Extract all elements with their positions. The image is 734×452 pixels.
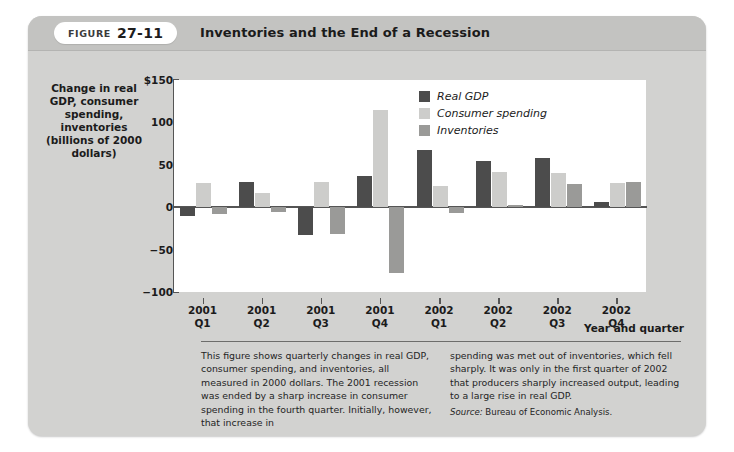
legend-label: Inventories: [437, 124, 499, 137]
figure-number: 27-11: [117, 25, 163, 41]
x-axis-label: 2001Q4: [350, 304, 410, 329]
y-axis-ticks: $150100500−50−100: [143, 80, 173, 292]
figure-panel: FIGURE 27-11 Inventories and the End of …: [28, 16, 706, 436]
x-label-year: 2002: [409, 304, 469, 317]
x-axis-labels: 2001Q12001Q22001Q32001Q42002Q12002Q22002…: [173, 298, 646, 328]
bar-consumer-spending: [196, 183, 211, 207]
x-label-quarter: Q3: [527, 317, 587, 330]
y-tick-label: −50: [150, 244, 173, 256]
caption-text-left: This figure shows quarterly changes in r…: [201, 349, 432, 429]
x-axis-label: 2002Q1: [409, 304, 469, 329]
bar-consumer-spending: [610, 183, 625, 207]
figure-title: Inventories and the End of a Recession: [200, 25, 490, 40]
bar-group: [351, 80, 410, 292]
y-tick-label: 50: [158, 159, 173, 171]
bar-group: [588, 80, 647, 292]
bar-inventories: [626, 182, 641, 207]
legend-label: Consumer spending: [437, 107, 547, 120]
legend-swatch-icon: [419, 91, 430, 102]
x-axis-label: 2002Q3: [527, 304, 587, 329]
legend-swatch-icon: [419, 125, 430, 136]
bar-consumer-spending: [433, 186, 448, 207]
y-tick-label: 0: [166, 201, 173, 213]
legend-item: Inventories: [419, 122, 589, 139]
chart-container: Change in real GDP, consumer spending, i…: [28, 50, 706, 338]
bar-consumer-spending: [314, 182, 329, 207]
x-label-year: 2001: [173, 304, 233, 317]
bar-group: [292, 80, 351, 292]
y-tick-label: $150: [144, 74, 173, 86]
legend-label: Real GDP: [437, 90, 488, 103]
bar-real-gdp: [594, 202, 609, 207]
bar-inventories: [508, 205, 523, 208]
x-axis-title: Year and quarter: [584, 322, 684, 334]
figure-caption: This figure shows quarterly changes in r…: [201, 341, 681, 429]
x-label-quarter: Q1: [409, 317, 469, 330]
bar-real-gdp: [357, 176, 372, 207]
bar-inventories: [212, 207, 227, 214]
x-label-year: 2001: [232, 304, 292, 317]
x-label-quarter: Q2: [468, 317, 528, 330]
legend-item: Real GDP: [419, 88, 589, 105]
figure-number-badge: FIGURE 27-11: [54, 22, 177, 44]
bar-inventories: [330, 207, 345, 234]
figure-header: FIGURE 27-11 Inventories and the End of …: [28, 16, 706, 51]
bar-real-gdp: [298, 207, 313, 235]
bar-group: [174, 80, 233, 292]
bar-inventories: [567, 184, 582, 207]
source-text: Bureau of Economic Analysis.: [485, 407, 612, 417]
x-label-year: 2001: [291, 304, 351, 317]
bar-consumer-spending: [255, 193, 270, 207]
bar-inventories: [449, 207, 464, 213]
bar-real-gdp: [535, 158, 550, 207]
legend-item: Consumer spending: [419, 105, 589, 122]
bar-real-gdp: [476, 161, 491, 207]
bar-consumer-spending: [551, 173, 566, 207]
bar-group: [233, 80, 292, 292]
x-label-year: 2001: [350, 304, 410, 317]
bar-consumer-spending: [373, 110, 388, 208]
bar-consumer-spending: [492, 172, 507, 207]
caption-column-left: This figure shows quarterly changes in r…: [201, 349, 432, 429]
x-label-quarter: Q4: [350, 317, 410, 330]
x-label-year: 2002: [527, 304, 587, 317]
legend-swatch-icon: [419, 108, 430, 119]
x-axis-label: 2001Q2: [232, 304, 292, 329]
x-label-quarter: Q2: [232, 317, 292, 330]
chart-legend: Real GDPConsumer spendingInventories: [419, 88, 589, 139]
figure-label: FIGURE: [68, 28, 111, 39]
x-axis-label: 2001Q1: [173, 304, 233, 329]
bar-real-gdp: [239, 182, 254, 207]
caption-text-right: spending was met out of inventories, whi…: [450, 349, 681, 403]
source-label: Source:: [450, 407, 483, 417]
x-label-quarter: Q3: [291, 317, 351, 330]
bar-real-gdp: [417, 150, 432, 207]
bar-inventories: [271, 207, 286, 212]
y-tick-label: 100: [151, 116, 173, 128]
caption-source: Source: Bureau of Economic Analysis.: [450, 407, 681, 418]
x-axis-label: 2001Q3: [291, 304, 351, 329]
bar-inventories: [389, 207, 404, 273]
bar-real-gdp: [180, 207, 195, 215]
x-label-year: 2002: [586, 304, 646, 317]
caption-column-right: spending was met out of inventories, whi…: [450, 349, 681, 429]
x-label-year: 2002: [468, 304, 528, 317]
x-axis-label: 2002Q2: [468, 304, 528, 329]
y-axis-title: Change in real GDP, consumer spending, i…: [38, 82, 150, 160]
y-tick-label: −100: [142, 286, 173, 298]
x-label-quarter: Q1: [173, 317, 233, 330]
